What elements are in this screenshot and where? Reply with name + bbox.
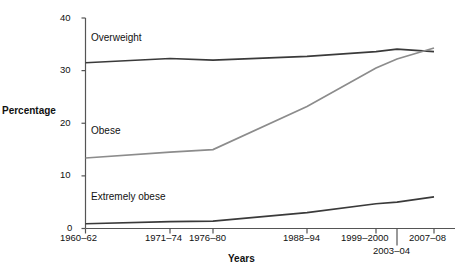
series-line-obese	[86, 48, 435, 158]
x-tick-label-2007-08: 2007–08	[409, 233, 446, 243]
x-tick-label-1976-80: 1976–80	[189, 233, 226, 243]
series-line-overweight	[86, 49, 435, 63]
x-tick-label-1960-62: 1960–62	[60, 233, 97, 243]
x-tick-label-1988-94: 1988–94	[283, 233, 320, 243]
x-tick-label-1999-2000: 1999–2000	[341, 233, 389, 243]
x-axis-title: Years	[228, 254, 255, 264]
series-annotation-overweight: Overweight	[91, 33, 142, 43]
y-tick-label-40: 40	[60, 13, 71, 23]
series-annotation-obese: Obese	[91, 126, 120, 136]
series-annotation-extremely-obese: Extremely obese	[91, 192, 165, 202]
x-tick-label-1971-74: 1971–74	[145, 233, 182, 243]
y-tick-label-30: 30	[60, 65, 71, 75]
y-tick-label-10: 10	[60, 170, 71, 180]
y-tick-label-20: 20	[60, 118, 71, 128]
x-tick-label-2003-04: 2003–04	[373, 246, 410, 256]
chart-figure: 40 30 20 10 0 Percentage 1960–62 1971–74…	[0, 0, 461, 266]
y-axis-title: Percentage	[2, 106, 56, 116]
